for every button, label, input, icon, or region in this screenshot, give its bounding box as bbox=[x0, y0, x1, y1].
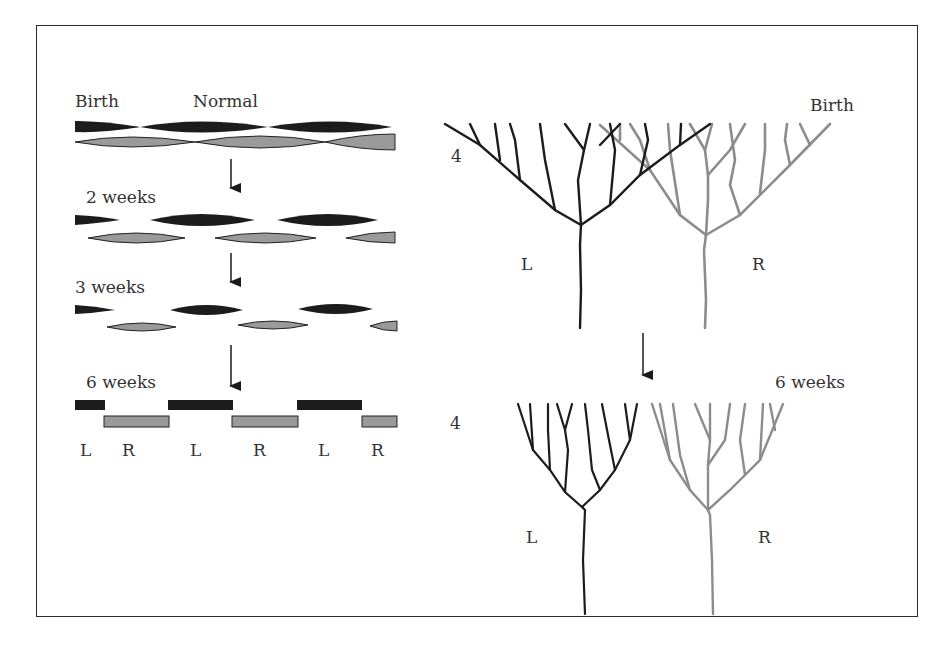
label-stage-birth: Birth bbox=[810, 95, 854, 115]
six-weeks-bands bbox=[75, 400, 397, 427]
column-label-right: R bbox=[122, 440, 135, 460]
birth-bands bbox=[75, 121, 395, 150]
six-weeks-tree-left bbox=[518, 404, 637, 614]
two-weeks-bands bbox=[75, 214, 395, 243]
three-weeks-bands bbox=[75, 304, 397, 331]
label-stage-6-weeks: 6 weeks bbox=[775, 372, 845, 392]
label-normal: Normal bbox=[193, 91, 258, 111]
label-birth: Birth bbox=[75, 91, 119, 111]
label-3-weeks: 3 weeks bbox=[75, 277, 145, 297]
column-label-left: L bbox=[80, 440, 91, 460]
label-tree-left: L bbox=[521, 254, 532, 274]
six-weeks-tree-right bbox=[652, 404, 783, 614]
label-tree-right: R bbox=[758, 527, 771, 547]
label-layer-4: 4 bbox=[451, 146, 462, 166]
birth-tree-right bbox=[600, 124, 830, 328]
column-label-left: L bbox=[318, 440, 329, 460]
label-2-weeks: 2 weeks bbox=[86, 187, 156, 207]
label-6-weeks: 6 weeks bbox=[86, 372, 156, 392]
label-tree-left: L bbox=[526, 527, 537, 547]
label-tree-right: R bbox=[752, 254, 765, 274]
column-label-right: R bbox=[253, 440, 266, 460]
column-label-left: L bbox=[190, 440, 201, 460]
label-layer-4: 4 bbox=[450, 413, 461, 433]
column-label-right: R bbox=[371, 440, 384, 460]
figure-graphics bbox=[0, 0, 931, 647]
